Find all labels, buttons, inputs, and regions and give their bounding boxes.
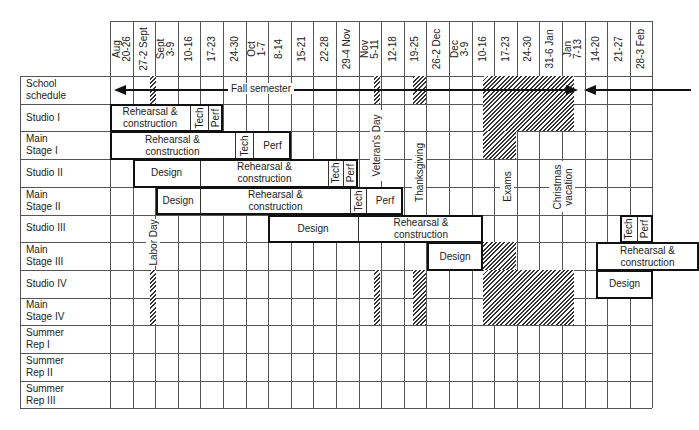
phase-label: Perf (640, 220, 652, 238)
arrow-left-icon (584, 85, 596, 95)
phase-label: Perf (376, 195, 394, 207)
column-header-label: 31-6 Jan (546, 29, 556, 68)
row-label: Studio IV (26, 270, 67, 298)
grid-col-line (607, 21, 608, 408)
column-header-week: 22-28 (313, 21, 336, 76)
schedule-block: DesignRehearsal & construction (268, 215, 483, 244)
column-header-label: 21-27 (613, 36, 623, 62)
exams-label: Exams (500, 161, 514, 212)
schedule-block: Rehearsal & constructionTechPerf (110, 131, 291, 160)
column-header-week: 17-23 (200, 21, 223, 76)
holiday-label: Veteran's Day (372, 114, 383, 176)
holiday-label: Labor Day (148, 219, 159, 265)
column-header-week: 12-18 (381, 21, 404, 76)
column-header-label: 24-30 (229, 36, 239, 62)
fall-semester-label: Fall semester (228, 83, 294, 94)
column-header-label: 24-30 (523, 36, 533, 62)
exams-christmas-hatch (483, 270, 574, 325)
phase-design: Design (156, 189, 200, 214)
phase-label: Design (609, 278, 640, 290)
column-header-label: Jan 7-13 (563, 38, 583, 58)
row-label: Main Stage IV (26, 298, 64, 326)
phase-label: Rehearsal & construction (237, 161, 292, 185)
grid-col-line (110, 21, 111, 408)
column-header-label: Oct 1-7 (247, 41, 267, 57)
arrow-left-icon (114, 85, 126, 95)
thanksgiving-label: Thanksgiving (412, 135, 426, 210)
phase-tech: Tech (350, 189, 366, 214)
phase-tech: Tech (328, 161, 343, 186)
column-header-label: 17-23 (207, 36, 217, 62)
phase-design: Design (268, 217, 358, 242)
schedule-block: Design (596, 270, 653, 299)
exams-hatch (483, 131, 516, 159)
veterans-day-hatch (374, 270, 380, 325)
holiday-label: Thanksgiving (414, 143, 425, 202)
phase-label: Perf (210, 109, 222, 127)
phase-label: Design (439, 251, 470, 263)
row-label: Main Stage III (26, 242, 63, 270)
row-label: Summer Rep I (26, 325, 64, 353)
column-header-label: 27-2 Sept (139, 27, 149, 70)
phase-label: Rehearsal & construction (122, 106, 177, 130)
schedule-block: DesignRehearsal & constructionTechPerf (133, 159, 358, 188)
column-header-week: 10-16 (472, 21, 495, 76)
phase-rehearsal: Rehearsal & construction (110, 106, 190, 131)
phase-perf: Perf (637, 217, 653, 242)
holiday-label: Christmas vacation (551, 164, 573, 209)
phase-label: Tech (239, 135, 251, 156)
column-header-label: 15-21 (297, 36, 307, 62)
column-header-label: 17-23 (500, 36, 510, 62)
phase-perf: Perf (343, 161, 358, 186)
column-header-label: Aug 20-26 (111, 36, 131, 62)
phase-label: Rehearsal & construction (620, 245, 675, 269)
phase-design: Design (427, 244, 483, 269)
phase-label: Rehearsal & construction (145, 134, 200, 158)
row-label: Main Stage II (26, 187, 60, 215)
phase-label: Design (151, 167, 182, 179)
column-header-label: 14-20 (591, 36, 601, 62)
phase-rehearsal: Rehearsal & construction (200, 161, 328, 186)
arrow-right-icon (566, 85, 578, 95)
thanksgiving-hatch (413, 270, 426, 325)
column-header-label: 12-18 (387, 36, 397, 62)
phase-tech: Tech (190, 106, 208, 131)
phase-design: Design (133, 161, 200, 186)
phase-rehearsal: Rehearsal & construction (596, 244, 699, 269)
row-label: School schedule (26, 76, 66, 104)
column-header-label: 8-14 (274, 38, 284, 58)
row-label: Studio I (26, 104, 60, 132)
phase-label: Perf (263, 140, 281, 152)
exams-christmas-hatch (483, 76, 574, 131)
row-label: Summer Rep III (26, 381, 64, 409)
schedule-block: Design (427, 242, 483, 271)
column-header-week: 31-6 Jan (539, 21, 562, 76)
phase-perf: Perf (253, 133, 291, 158)
schedule-block: Rehearsal & construction (596, 242, 699, 271)
column-header-week: 26-2 Dec (426, 21, 449, 76)
grid-col-line (585, 21, 586, 408)
row-label: Main Stage I (26, 131, 58, 159)
veterans-day-label: Veteran's Day (370, 110, 384, 181)
phase-label: Perf (345, 164, 357, 182)
phase-label: Design (162, 195, 193, 207)
spring-semester-arrow-line (586, 89, 691, 91)
column-header-label: 28-3 Feb (636, 28, 646, 68)
phase-perf: Perf (366, 189, 403, 214)
schedule-block: DesignRehearsal & constructionTechPerf (156, 187, 403, 216)
labor-day-hatch (150, 270, 156, 325)
phase-tech: Tech (235, 133, 253, 158)
column-header-label: 29-4 Nov (342, 28, 352, 69)
column-header-week: Oct 1-7 (246, 21, 269, 76)
row-label: Studio II (26, 159, 63, 187)
row-label: Summer Rep II (26, 353, 64, 381)
phase-perf: Perf (208, 106, 223, 131)
holiday-label: Exams (502, 172, 513, 203)
column-header-label: 19-25 (410, 36, 420, 62)
phase-label: Tech (623, 218, 635, 239)
labor-day-label: Labor Day (146, 219, 160, 266)
schedule-block: TechPerf (620, 215, 653, 244)
exams-hatch (483, 242, 516, 270)
phase-rehearsal: Rehearsal & construction (110, 133, 235, 158)
christmas-vacation-label: Christmas vacation (549, 161, 575, 212)
